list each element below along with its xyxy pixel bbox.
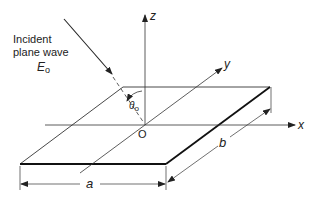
incidence-angle: θo [127,91,142,113]
dimension-a: a [20,166,166,191]
incident-wave: Incident plane wave Eo [13,19,144,123]
plate-scattering-diagram: x y z O Incident plane wave Eo θo a b [0,0,312,202]
y-axis: y [80,57,231,173]
origin-label: O [138,128,147,140]
dimension-a-label: a [86,176,93,191]
incident-label-line1: Incident [13,33,52,45]
x-axis: x [45,118,305,132]
y-axis-label: y [223,57,231,71]
x-axis-label: x [297,118,305,132]
dimension-b: b [168,87,271,182]
angle-label: θo [129,100,139,113]
incident-label-line2: plane wave [13,46,69,58]
incident-arrow [64,19,112,74]
z-axis-label: z [149,9,156,23]
dimension-b-label: b [219,135,226,150]
z-axis: z [145,9,156,125]
field-symbol: Eo [37,60,50,75]
plate-right-edge [166,87,270,164]
